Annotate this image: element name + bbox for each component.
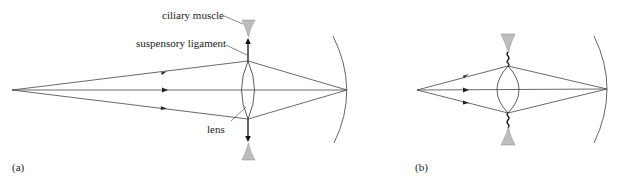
arrow-icon bbox=[463, 88, 469, 93]
panel-b: (b) bbox=[415, 34, 607, 174]
light-rays-b bbox=[417, 66, 607, 113]
panel-a: ciliary muscle suspensory ligament lens … bbox=[12, 9, 347, 174]
label-lens: lens bbox=[207, 123, 225, 135]
ciliary-muscle-top-b bbox=[501, 34, 515, 53]
panel-label-b: (b) bbox=[415, 161, 428, 174]
suspensory-ligament-bottom-b bbox=[507, 113, 509, 128]
arrow-down-icon bbox=[245, 136, 251, 142]
arrow-icon bbox=[162, 88, 168, 93]
panel-label-a: (a) bbox=[12, 161, 25, 174]
label-suspensory-ligament: suspensory ligament bbox=[136, 37, 226, 49]
arrow-icon bbox=[161, 106, 167, 110]
suspensory-ligament-top-b bbox=[507, 52, 509, 66]
ciliary-muscle-bottom-b bbox=[501, 127, 515, 145]
label-ciliary-muscle: ciliary muscle bbox=[162, 9, 224, 21]
arrow-up-icon bbox=[245, 38, 251, 44]
ciliary-muscle-top-a bbox=[242, 20, 255, 37]
eye-accommodation-diagram: ciliary muscle suspensory ligament lens … bbox=[0, 0, 624, 182]
light-rays-a bbox=[12, 61, 347, 119]
ciliary-muscle-bottom-a bbox=[242, 143, 255, 160]
